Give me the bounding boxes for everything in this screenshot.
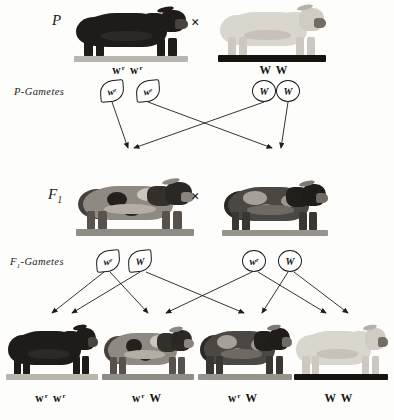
f2a-foreleg-right [73, 356, 80, 373]
bull-platform [74, 56, 188, 62]
p-gamete-W-2-allele: W [284, 86, 293, 97]
f2-genotype-roan-1: wr W [116, 392, 178, 404]
f1-gamete-wr-2: wr [242, 250, 266, 272]
red-shorthorn-bull [74, 4, 188, 62]
p-generation-label: P [52, 12, 62, 29]
f1-gamete-wr-1: wr [95, 249, 120, 273]
f2b-foreleg-right [169, 357, 176, 374]
f2-genotype-roan-1-allele-1: wr [132, 392, 146, 404]
f2c-foreleg-left [276, 356, 283, 373]
f2-genotype-roan-2-allele-2: W [245, 392, 258, 404]
f1-bull-platform [76, 229, 194, 236]
f2d-hindleg-left [302, 356, 309, 373]
p-gamete-wr-2: wr [135, 79, 160, 103]
bull-foreleg-right [157, 38, 166, 55]
p-genotype-white: W W [246, 64, 302, 76]
cow-muzzle [314, 18, 326, 28]
p-gamete-wr-2-allele: wr [143, 85, 153, 97]
roan-shorthorn-bull [76, 176, 194, 236]
f2a-belly [28, 349, 68, 358]
f2b-hindleg-left [110, 357, 117, 374]
f2a-muzzle [88, 337, 98, 347]
p-gamete-W-1: W [252, 80, 276, 102]
f2b-hindleg-right [119, 357, 126, 374]
f1-bull-hindleg-right [98, 211, 107, 229]
f1-cow-platform [222, 230, 328, 236]
f1-label-subscript: 1 [58, 195, 63, 205]
f2-genotype-roan-2-allele-1: wr [228, 392, 242, 404]
f2a-hindleg-right [23, 356, 30, 373]
f2b-platform [102, 374, 194, 380]
f2b-foreleg-left [178, 357, 185, 374]
f1-bull-hindleg-left [87, 211, 96, 229]
f1-cow-patch-1 [243, 191, 266, 205]
f2-offspring-red [6, 322, 98, 380]
f2c-hindleg-left [206, 356, 213, 373]
f2d-foreleg-right [362, 356, 369, 373]
f2d-foreleg-left [372, 356, 379, 373]
f1-bull-foreleg-right [162, 211, 171, 229]
p-genotype-red-allele-1: wr [112, 64, 126, 76]
f2-genotype-red-allele-1: wr [35, 392, 49, 404]
f2-genotype-roan-1-allele-2: W [149, 392, 162, 404]
bull-hindleg-left [84, 38, 93, 55]
p-gamete-wr-1: wr [99, 79, 124, 103]
f2-offspring-white [294, 322, 388, 380]
cow-foreleg-right [296, 37, 304, 55]
f2c-belly [221, 349, 262, 358]
f1-gamete-W-1: W [127, 249, 152, 273]
f1-cow-hindleg-right [242, 212, 250, 229]
white-shorthorn-cow [218, 2, 326, 62]
f2d-platform [294, 374, 388, 380]
f1-bull-belly [104, 204, 156, 214]
p-gamete-W-2: W [276, 80, 300, 102]
f1-gametes-label: F1-Gametes [10, 256, 64, 269]
p-genotype-red-sup-2: r [140, 64, 144, 71]
f2d-muzzle [378, 337, 388, 347]
f2c-muzzle [282, 337, 292, 347]
f2b-muzzle [184, 339, 194, 349]
f1-cow-muzzle [316, 193, 328, 203]
bull-belly [101, 31, 151, 40]
f2c-foreleg-right [266, 356, 273, 373]
bull-hindleg-right [96, 38, 105, 55]
cow-belly [244, 30, 292, 40]
pedigree-diagram: P × wr wr W W P-Gametes wr [0, 0, 394, 420]
f1-cow-hindleg-left [232, 212, 240, 229]
f1-gametes-label-rest: -Gametes [20, 256, 63, 267]
f1-label-letter: F [48, 186, 58, 202]
cow-foreleg-left [307, 37, 315, 55]
p-genotype-red-sup-1: r [122, 64, 126, 71]
f2-offspring-roan-2 [198, 322, 292, 380]
f1-cow-foreleg-left [309, 212, 317, 229]
f2-genotype-white: W W [308, 392, 370, 404]
p-to-f1-arrows [112, 102, 288, 148]
cow-hindleg-right [239, 37, 247, 55]
p-genotype-red: wr wr [100, 64, 156, 76]
f1-bull-foreleg-left [173, 211, 182, 229]
cow-hindleg-left [228, 37, 236, 55]
p-cross-symbol: × [191, 14, 200, 31]
p-gamete-W-1-allele: W [260, 86, 269, 97]
f2a-foreleg-left [82, 356, 89, 373]
p-gametes-label: P-Gametes [14, 86, 64, 97]
f1-cow-belly [247, 205, 294, 214]
f1-cross-symbol: × [191, 188, 200, 205]
f2c-hindleg-right [216, 356, 223, 373]
cow-platform [218, 55, 326, 62]
f2c-platform [198, 374, 292, 380]
f2-genotype-red: wr wr [20, 392, 82, 404]
f1-generation-label: F1 [48, 186, 63, 205]
bull-foreleg-left [168, 38, 177, 55]
f2d-belly [317, 349, 358, 358]
f1-to-f2-arrows [52, 272, 348, 313]
f1-gamete-wr-1-allele: wr [103, 255, 113, 267]
p-gamete-wr-1-allele: wr [107, 85, 117, 97]
f1-gametes-label-letter: F [10, 256, 17, 267]
f1-gamete-W-1-allele: W [135, 255, 145, 267]
p-genotype-red-allele-2: wr [130, 64, 144, 76]
f1-gamete-wr-2-allele: wr [250, 256, 259, 267]
f2-genotype-red-allele-2: wr [53, 392, 67, 404]
f2d-hindleg-right [312, 356, 319, 373]
f2b-belly [124, 350, 164, 359]
